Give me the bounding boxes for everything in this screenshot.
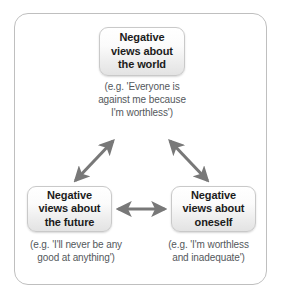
caption-oneself: (e.g. 'I'm worthless and inadequate') <box>146 238 271 264</box>
node-negative-views-about-the-world[interactable]: Negativeviews aboutthe world <box>99 27 185 76</box>
node-oneself-label: Negativeviews aboutoneself <box>179 189 249 230</box>
node-negative-views-about-the-future[interactable]: Negativeviews aboutthe future <box>27 186 112 232</box>
node-future-label: Negativeviews aboutthe future <box>35 189 105 230</box>
node-negative-views-about-oneself[interactable]: Negativeviews aboutoneself <box>171 186 256 232</box>
node-world-label: Negativeviews aboutthe world <box>107 31 177 72</box>
diagram-canvas: Negativeviews aboutthe world (e.g. 'Ever… <box>0 0 283 300</box>
caption-world: (e.g. 'Everyone is against me because I'… <box>64 80 220 119</box>
caption-future: (e.g. 'I'll never be any good at anythin… <box>9 238 143 264</box>
